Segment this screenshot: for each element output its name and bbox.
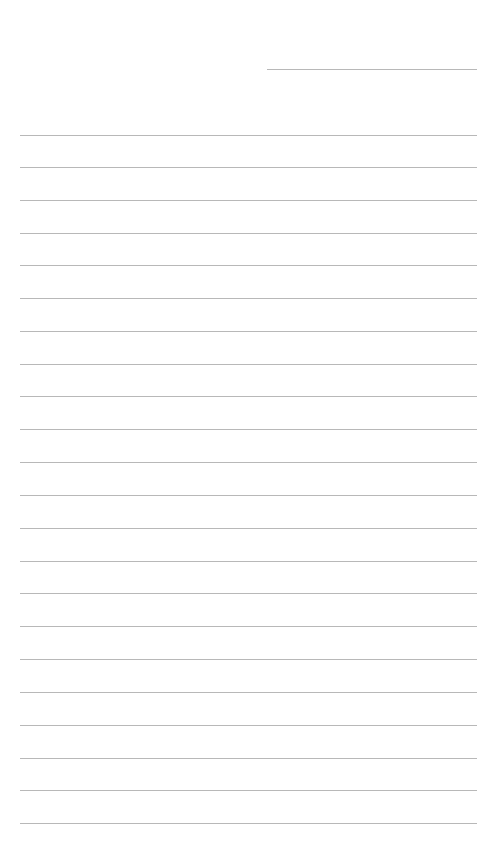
ruled-line (20, 692, 477, 693)
header-line (267, 69, 477, 70)
ruled-line (20, 561, 477, 562)
ruled-line (20, 167, 477, 168)
ruled-line (20, 429, 477, 430)
ruled-line (20, 495, 477, 496)
ruled-line (20, 790, 477, 791)
ruled-line (20, 331, 477, 332)
ruled-line (20, 462, 477, 463)
ruled-line (20, 233, 477, 234)
ruled-line (20, 758, 477, 759)
ruled-line (20, 265, 477, 266)
ruled-line (20, 396, 477, 397)
ruled-line (20, 725, 477, 726)
ruled-line (20, 659, 477, 660)
ruled-line (20, 626, 477, 627)
ruled-line (20, 135, 477, 136)
footer-text-cropped (2, 850, 332, 856)
ruled-line (20, 593, 477, 594)
ruled-line (20, 298, 477, 299)
ruled-line (20, 823, 477, 824)
ruled-line (20, 364, 477, 365)
ruled-line (20, 200, 477, 201)
ruled-line (20, 528, 477, 529)
